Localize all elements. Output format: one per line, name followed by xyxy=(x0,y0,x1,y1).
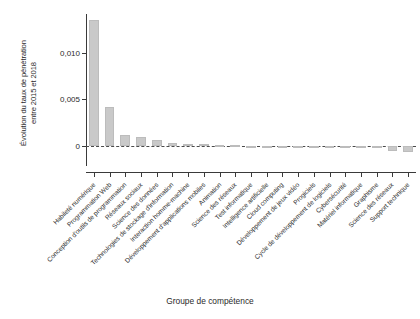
bar xyxy=(89,20,99,146)
bar xyxy=(105,107,115,146)
bar xyxy=(388,146,398,152)
bar xyxy=(168,143,178,146)
y-tick-mark xyxy=(82,53,86,54)
x-tick-mark xyxy=(188,173,189,177)
x-tick-mark xyxy=(408,173,409,177)
bar xyxy=(230,145,240,147)
x-tick-mark xyxy=(251,173,252,177)
bar xyxy=(278,146,288,148)
bar xyxy=(356,146,366,148)
x-tick-mark xyxy=(110,173,111,177)
bar xyxy=(325,146,335,148)
x-tick-mark xyxy=(220,173,221,177)
plot-area: 00,0050,010 xyxy=(86,14,416,157)
y-tick-label: 0,010 xyxy=(60,49,80,58)
x-tick-mark xyxy=(330,173,331,177)
x-tick-mark xyxy=(267,173,268,177)
x-tick-mark xyxy=(157,173,158,177)
bar xyxy=(246,146,256,148)
bar xyxy=(152,140,162,146)
bar xyxy=(309,146,319,148)
bar xyxy=(199,144,209,146)
y-tick-label: 0,005 xyxy=(60,95,80,104)
bar xyxy=(293,146,303,148)
bar xyxy=(262,146,272,148)
y-axis-title: Évolution du taux de pénétration entre 2… xyxy=(19,18,33,168)
x-axis-title: Groupe de compétence xyxy=(0,296,420,306)
x-tick-mark xyxy=(361,173,362,177)
x-tick-mark xyxy=(141,173,142,177)
x-tick-mark xyxy=(125,173,126,177)
y-tick-mark xyxy=(82,146,86,147)
bar xyxy=(340,146,350,148)
x-tick-mark xyxy=(282,173,283,177)
x-tick-mark xyxy=(392,173,393,177)
bar-chart-figure: Évolution du taux de pénétration entre 2… xyxy=(0,0,420,319)
bar xyxy=(215,145,225,147)
x-tick-mark xyxy=(314,173,315,177)
x-tick-mark xyxy=(172,173,173,177)
bar xyxy=(136,137,146,146)
x-tick-mark xyxy=(377,173,378,177)
y-tick-mark xyxy=(82,99,86,100)
bar xyxy=(372,146,382,148)
y-tick-label: 0 xyxy=(76,141,80,150)
x-tick-mark xyxy=(235,173,236,177)
x-tick-mark xyxy=(94,173,95,177)
bar xyxy=(183,144,193,146)
x-tick-mark xyxy=(298,173,299,177)
bar xyxy=(120,135,130,146)
bar xyxy=(403,146,413,152)
x-tick-mark xyxy=(204,173,205,177)
x-tick-mark xyxy=(345,173,346,177)
